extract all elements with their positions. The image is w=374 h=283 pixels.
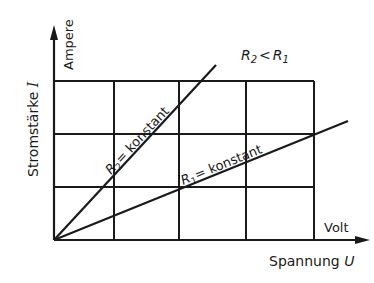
label-r1-konstant: R1= konstant — [179, 142, 265, 190]
grid — [54, 81, 314, 240]
x-axis — [54, 236, 370, 244]
x-axis-arrow-icon — [355, 236, 370, 244]
resistance-relation: R2<R1 — [241, 47, 289, 65]
x-axis-label: Spannung U — [269, 253, 354, 269]
y-axis-label: Stromstärke I — [25, 81, 41, 177]
y-axis-unit: Ampere — [61, 19, 76, 70]
y-axis — [50, 25, 58, 240]
label-r2-konstant: R2= konstant — [102, 104, 173, 179]
x-axis-unit: Volt — [324, 220, 349, 235]
y-axis-arrow-icon — [50, 25, 58, 40]
ohm-diagram: Stromstärke I Ampere Volt Spannung U R2<… — [0, 0, 374, 283]
